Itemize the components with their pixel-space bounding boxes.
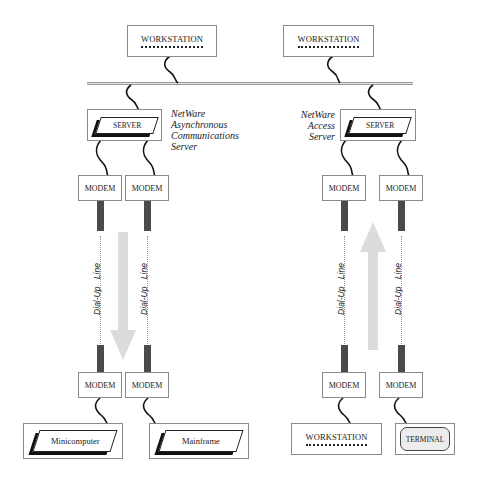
modem-right-top-1[interactable]: MODEM (322, 175, 366, 201)
minicomputer[interactable]: Minicomputer (23, 423, 123, 459)
modem-left-top-1[interactable]: MODEM (78, 175, 122, 201)
server-label: SERVER (112, 121, 140, 130)
workstation-top-right[interactable]: WORKSTATION (283, 25, 374, 57)
caption-line: Server (280, 131, 335, 142)
modem-label: MODEM (132, 184, 163, 193)
computer-icon: Mainframe (158, 430, 243, 452)
workstation-label: WORKSTATION (298, 35, 360, 48)
phone-cable (97, 201, 104, 231)
caption-line: NetWare (171, 108, 239, 119)
caption-line: Server (171, 141, 239, 152)
minicomputer-label: Minicomputer (51, 436, 100, 446)
modem-label: MODEM (329, 184, 360, 193)
dial-up-label: Dial-Up Line (393, 257, 403, 321)
terminal-icon: TERMINAL (400, 427, 450, 451)
workstation-bottom[interactable]: WORKSTATION (291, 423, 382, 455)
workstation-label: WORKSTATION (306, 433, 368, 446)
modem-label: MODEM (85, 381, 116, 390)
server-icon: SERVER (95, 117, 159, 134)
caption-line: Asynchronous (171, 119, 239, 130)
modem-label: MODEM (386, 184, 417, 193)
caption-line: Communications (171, 130, 239, 141)
server-icon: SERVER (348, 117, 412, 134)
phone-cable (144, 201, 151, 231)
access-server-caption: NetWare Access Server (280, 109, 335, 142)
arrow-up-icon (358, 222, 388, 352)
modem-left-bottom-2[interactable]: MODEM (125, 372, 169, 398)
dial-up-label: Dial-Up Line (336, 257, 346, 321)
modem-label: MODEM (329, 381, 360, 390)
caption-line: NetWare (280, 109, 335, 120)
dial-up-label: Dial-Up Line (139, 257, 149, 321)
modem-right-bottom-1[interactable]: MODEM (322, 372, 366, 398)
dial-up-label: Dial-Up Line (92, 257, 102, 321)
access-server[interactable]: SERVER (340, 109, 416, 141)
phone-cable (341, 345, 348, 373)
async-comm-server[interactable]: SERVER (87, 109, 162, 141)
phone-cable (398, 201, 405, 231)
terminal[interactable]: TERMINAL (395, 423, 455, 455)
modem-right-top-2[interactable]: MODEM (379, 175, 423, 201)
modem-left-bottom-1[interactable]: MODEM (78, 372, 122, 398)
mainframe[interactable]: Mainframe (149, 423, 249, 459)
modem-left-top-2[interactable]: MODEM (125, 175, 169, 201)
modem-label: MODEM (132, 381, 163, 390)
phone-cable (97, 345, 104, 373)
terminal-label: TERMINAL (406, 435, 445, 444)
arrow-down-icon (108, 232, 138, 362)
async-server-caption: NetWare Asynchronous Communications Serv… (171, 108, 239, 152)
caption-line: Access (280, 120, 335, 131)
modem-right-bottom-2[interactable]: MODEM (379, 372, 423, 398)
workstation-top-left[interactable]: WORKSTATION (127, 25, 217, 57)
phone-cable (398, 345, 405, 373)
modem-label: MODEM (386, 381, 417, 390)
modem-label: MODEM (85, 184, 116, 193)
workstation-label: WORKSTATION (141, 35, 203, 48)
phone-cable (144, 345, 151, 373)
server-label: SERVER (366, 121, 394, 130)
computer-icon: Minicomputer (32, 430, 117, 452)
mainframe-label: Mainframe (182, 436, 220, 446)
phone-cable (341, 201, 348, 231)
connector-lines (0, 0, 478, 481)
